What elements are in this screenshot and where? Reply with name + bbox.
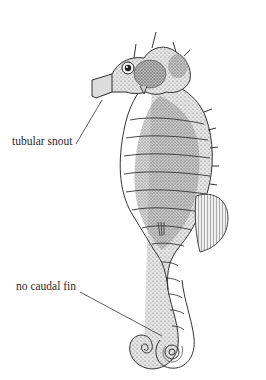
label-tubular-snout: tubular snout [12,136,72,148]
seahorse-illustration [0,0,266,380]
label-no-caudal-fin: no caudal fin [16,281,76,293]
eye [122,62,134,74]
snout [92,74,112,98]
snout-leader-line [76,100,102,144]
dorsal-fin [195,194,228,252]
seahorse-head [92,32,190,98]
